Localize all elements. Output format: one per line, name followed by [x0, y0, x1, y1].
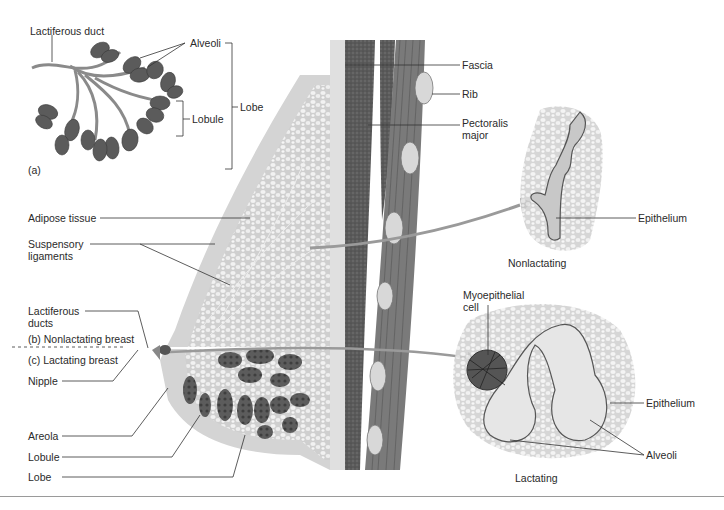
panel-b-title: (b) Nonlactating breast	[28, 333, 134, 345]
caption-lactating: Lactating	[515, 472, 558, 484]
label-pectoralis-major-2: major	[462, 129, 488, 141]
label-epithelium-lactating: Epithelium	[646, 397, 695, 409]
label-lactiferous-ducts-1: Lactiferous	[28, 305, 79, 317]
label-lobule-a: Lobule	[192, 113, 224, 125]
lactating-inset	[453, 304, 644, 458]
caption-nonlactating: Nonlactating	[508, 257, 566, 269]
breast-anatomy-illustration	[0, 0, 724, 510]
label-areola: Areola	[28, 430, 58, 442]
label-lactiferous-duct-a: Lactiferous duct	[30, 25, 104, 37]
bottom-divider	[0, 496, 724, 497]
label-alveoli-a: Alveoli	[190, 37, 221, 49]
label-alveoli-lactating: Alveoli	[646, 449, 677, 461]
label-myoepithelial-cell-2: cell	[463, 301, 479, 313]
label-lobe: Lobe	[28, 471, 51, 483]
breast-sagittal-section	[152, 40, 433, 470]
panel-c-title: (c) Lactating breast	[28, 354, 118, 366]
panel-a-lobe-drawing	[32, 35, 238, 169]
label-suspensory-ligaments-2: ligaments	[28, 250, 73, 262]
label-pectoralis-major-1: Pectoralis	[462, 117, 508, 129]
label-adipose-tissue: Adipose tissue	[28, 212, 96, 224]
panel-a-tag: (a)	[28, 164, 41, 176]
label-suspensory-ligaments-1: Suspensory	[28, 238, 83, 250]
nonlactating-inset	[521, 106, 636, 250]
label-lobe-a: Lobe	[240, 101, 263, 113]
label-rib: Rib	[462, 88, 478, 100]
label-lactiferous-ducts-2: ducts	[28, 317, 53, 329]
label-myoepithelial-cell-1: Myoepithelial	[463, 289, 524, 301]
label-nipple: Nipple	[28, 375, 58, 387]
label-fascia: Fascia	[462, 59, 493, 71]
label-epithelium-nonlactating: Epithelium	[638, 212, 687, 224]
label-lobule: Lobule	[28, 451, 60, 463]
